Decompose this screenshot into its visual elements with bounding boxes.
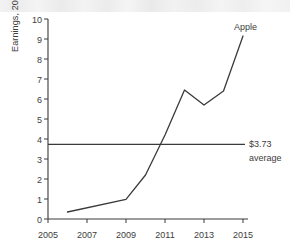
apple-series-label: Apple (234, 22, 257, 32)
line-chart: Earnings, 2016 dollars 10 9 8 7 6 5 4 3 … (0, 0, 290, 252)
apple-earnings-line (68, 36, 244, 212)
average-word-label: average (249, 153, 282, 163)
plot-canvas (0, 0, 290, 252)
axis-lines (48, 19, 248, 219)
average-value-label: $3.73 (249, 139, 272, 149)
y-axis-ticks (44, 19, 48, 219)
x-axis-ticks (48, 219, 243, 223)
